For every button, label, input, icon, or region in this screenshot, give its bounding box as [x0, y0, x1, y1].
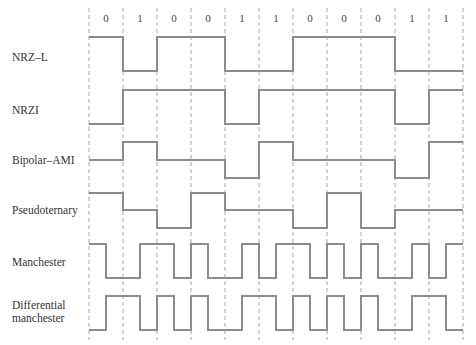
waveform-diffman — [89, 296, 463, 330]
waveform-pseudo — [89, 193, 463, 228]
waveform-manchester — [89, 244, 463, 278]
waveform-canvas — [0, 0, 476, 345]
waveform-nrzi — [89, 90, 463, 124]
waveform-nrzl — [89, 37, 463, 71]
waveform-ami — [89, 142, 463, 178]
waveforms — [89, 37, 463, 330]
bit-boundary-grid — [89, 8, 463, 340]
